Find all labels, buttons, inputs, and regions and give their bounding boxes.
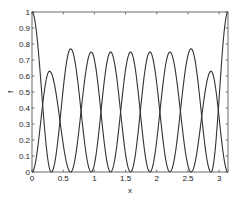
- x-tick-label: 2: [155, 174, 160, 183]
- y-tick-label: 0.1: [19, 152, 31, 161]
- y-tick-label: 0.6: [19, 72, 31, 81]
- y-tick-label: 0.2: [19, 136, 31, 145]
- x-tick-label: 1: [92, 174, 97, 183]
- curves: [32, 12, 228, 172]
- y-tick-label: 1: [26, 8, 31, 17]
- y-tick-label: 0.7: [19, 56, 31, 65]
- x-axis-label: x: [128, 186, 132, 195]
- series-line: [191, 71, 228, 172]
- series-line: [32, 12, 51, 172]
- x-tick-label: 3: [217, 174, 222, 183]
- series-line: [111, 52, 150, 172]
- x-tick-label: 1.5: [120, 174, 132, 183]
- series-line: [170, 49, 211, 172]
- series-line: [91, 52, 130, 172]
- x-tick-label: 2.5: [182, 174, 194, 183]
- x-tick-label: 0: [30, 174, 35, 183]
- series-line: [211, 12, 228, 172]
- y-tick-label: 0.3: [19, 120, 31, 129]
- y-tick-label: 0.9: [19, 24, 31, 33]
- y-tick-label: 0.8: [19, 40, 31, 49]
- y-tick-label: 0.4: [19, 104, 31, 113]
- series-line: [131, 52, 170, 172]
- series-line: [32, 71, 71, 172]
- chart: 00.511.522.53 00.10.20.30.40.50.60.70.80…: [0, 0, 241, 199]
- y-tick-label: 0: [26, 168, 31, 177]
- y-axis-label: f: [6, 90, 15, 93]
- series-line: [51, 49, 91, 172]
- y-tick-label: 0.5: [19, 88, 31, 97]
- x-tick-label: 0.5: [58, 174, 70, 183]
